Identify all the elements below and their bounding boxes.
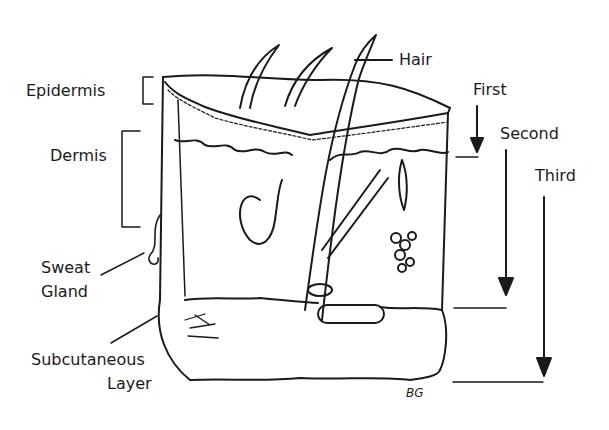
epidermis-bracket: [143, 77, 153, 104]
gland-label: Gland: [41, 282, 88, 301]
second-degree-arrow: [499, 150, 513, 295]
layer-label: Layer: [107, 374, 152, 393]
dermis-label: Dermis: [50, 146, 107, 165]
first-degree-label: First: [473, 80, 507, 99]
epidermis-label: Epidermis: [26, 81, 105, 100]
artist-signature: BG: [406, 384, 424, 403]
second-degree-label: Second: [500, 124, 559, 143]
first-degree-arrow: [471, 106, 483, 152]
skin-diagram: Epidermis Dermis Sweat Gland Subcutaneou…: [0, 0, 609, 430]
sweat-label: Sweat: [41, 258, 90, 277]
third-degree-arrow: [537, 197, 551, 376]
hair-label: Hair: [399, 50, 432, 69]
third-degree-label: Third: [535, 166, 576, 185]
dermis-bracket: [122, 131, 140, 227]
subcutaneous-label: Subcutaneous: [31, 350, 145, 369]
